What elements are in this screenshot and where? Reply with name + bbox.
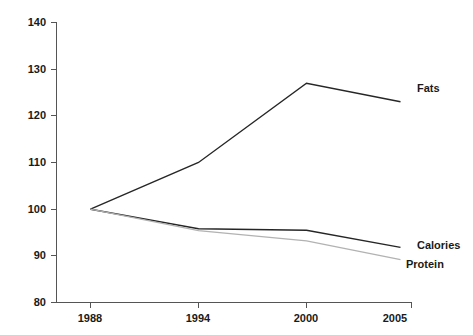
series-line-calories bbox=[91, 209, 401, 247]
chart-canvas: 140 130 120 110 100 90 80 1988 1994 2000… bbox=[0, 0, 473, 335]
series-label-calories: Calories bbox=[417, 239, 460, 251]
x-tick-label-1988: 1988 bbox=[78, 312, 102, 324]
y-tick-label-80: 80 bbox=[34, 296, 46, 308]
y-tick-label-130: 130 bbox=[28, 63, 46, 75]
series-line-fats bbox=[91, 83, 401, 209]
series-label-fats: Fats bbox=[417, 82, 440, 94]
x-tick-label-2000: 2000 bbox=[294, 312, 318, 324]
x-axis-ticks bbox=[91, 303, 412, 309]
series-line-protein bbox=[91, 209, 401, 259]
y-tick-label-90: 90 bbox=[34, 249, 46, 261]
y-tick-label-120: 120 bbox=[28, 109, 46, 121]
y-tick-label-140: 140 bbox=[28, 16, 46, 28]
x-tick-label-2005: 2005 bbox=[383, 312, 407, 324]
y-tick-label-110: 110 bbox=[28, 156, 46, 168]
y-axis-ticks bbox=[51, 23, 57, 303]
line-chart: 140 130 120 110 100 90 80 1988 1994 2000… bbox=[0, 0, 473, 335]
y-tick-label-100: 100 bbox=[28, 203, 46, 215]
series-label-protein: Protein bbox=[406, 258, 444, 270]
x-tick-label-1994: 1994 bbox=[186, 312, 211, 324]
